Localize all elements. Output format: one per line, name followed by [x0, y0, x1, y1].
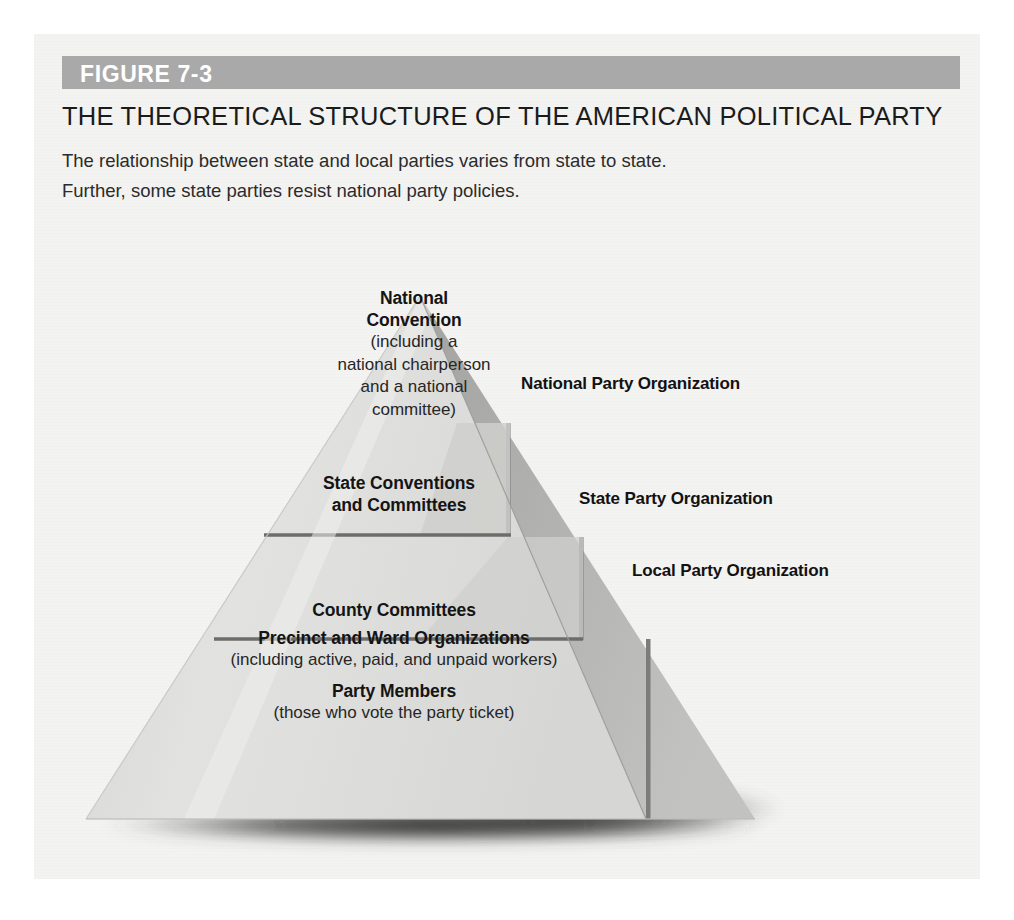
figure-number-label: FIGURE 7-3 [80, 61, 213, 88]
tier-state-text-block: State Conventions and Committees [234, 472, 564, 516]
figure-subtitle-line-1: The relationship between state and local… [62, 146, 802, 176]
side-label-state-party-organization: State Party Organization [579, 489, 773, 509]
tier-state-heading-line-2: and Committees [234, 494, 564, 516]
tier-national-detail-line-4: committee) [284, 399, 544, 422]
figure-panel: FIGURE 7-3 THE THEORETICAL STRUCTURE OF … [34, 34, 980, 879]
tier-local-detail-ticket: (those who vote the party ticket) [144, 702, 644, 725]
side-label-national-party-organization: National Party Organization [521, 374, 740, 394]
figure-subtitle-line-2: Further, some state parties resist natio… [62, 176, 802, 206]
tier-national-text-block: National Convention (including a nationa… [284, 287, 544, 421]
figure-subtitle: The relationship between state and local… [62, 146, 802, 206]
tier-state-heading-line-1: State Conventions [234, 472, 564, 494]
tier-local-heading-precinct: Precinct and Ward Organizations [144, 627, 644, 649]
tier-national-heading-line-2: Convention [284, 309, 544, 331]
tier-local-text-block: County Committees Precinct and Ward Orga… [144, 599, 644, 724]
tier-national-detail-line-2: national chairperson [284, 354, 544, 377]
tier-national-detail-line-3: and a national [284, 376, 544, 399]
side-label-local-party-organization: Local Party Organization [632, 561, 829, 581]
figure-number-band: FIGURE 7-3 [62, 56, 960, 89]
tier-local-heading-county: County Committees [144, 599, 644, 621]
pyramid-diagram: National Convention (including a nationa… [34, 219, 980, 879]
tier-local-detail-workers: (including active, paid, and unpaid work… [144, 649, 644, 672]
figure-title: THE THEORETICAL STRUCTURE OF THE AMERICA… [62, 102, 962, 131]
tier-national-heading-line-1: National [284, 287, 544, 309]
tier-national-detail-line-1: (including a [284, 331, 544, 354]
tier-local-heading-members: Party Members [144, 680, 644, 702]
